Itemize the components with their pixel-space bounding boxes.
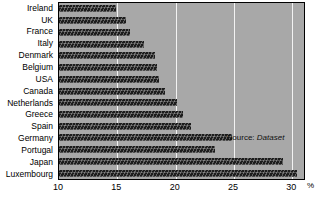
bar [59, 76, 159, 83]
x-axis-unit-label: % [307, 181, 314, 190]
value-axis: 1015202530 [58, 182, 305, 196]
bar-row [59, 26, 304, 38]
bar-row [59, 3, 304, 15]
bar [59, 88, 165, 95]
category-label: Japan [0, 156, 56, 168]
category-axis-labels: IrelandUKFranceItalyDenmarkBelgiumUSACan… [0, 2, 56, 180]
category-label: Germany [0, 132, 56, 144]
bar [59, 123, 191, 130]
bar-row [59, 85, 304, 97]
category-label: Luxembourg [0, 168, 56, 180]
bar [59, 158, 283, 165]
category-label: Belgium [0, 61, 56, 73]
bar-row [59, 167, 304, 179]
bar [59, 146, 215, 153]
bar [59, 99, 177, 106]
bar [59, 41, 144, 48]
bar [59, 5, 116, 12]
plot-area: Source: Dataset [58, 2, 305, 180]
bar-row [59, 50, 304, 62]
source-value: Dataset [257, 133, 285, 142]
bar [59, 170, 297, 177]
source-prefix: Source: [227, 133, 257, 142]
bar-row [59, 38, 304, 50]
bar-row [59, 144, 304, 156]
bar-chart: IrelandUKFranceItalyDenmarkBelgiumUSACan… [0, 0, 320, 206]
bar-row [59, 156, 304, 168]
category-label: USA [0, 73, 56, 85]
category-label: Netherlands [0, 97, 56, 109]
bar-row [59, 73, 304, 85]
category-label: Denmark [0, 49, 56, 61]
category-label: Greece [0, 109, 56, 121]
source-annotation: Source: Dataset [227, 133, 284, 142]
bar-row [59, 15, 304, 27]
bar [59, 52, 155, 59]
bar [59, 111, 183, 118]
bar [59, 29, 130, 36]
category-label: Italy [0, 38, 56, 50]
x-tick-label: 20 [170, 182, 180, 192]
category-label: France [0, 26, 56, 38]
x-tick-label: 30 [286, 182, 296, 192]
x-tick-label: 10 [53, 182, 63, 192]
category-label: UK [0, 14, 56, 26]
bar [59, 64, 157, 71]
category-label: Canada [0, 85, 56, 97]
x-tick-label: 25 [228, 182, 238, 192]
bar [59, 134, 232, 141]
x-tick-label: 15 [111, 182, 121, 192]
bar-row [59, 109, 304, 121]
category-label: Spain [0, 121, 56, 133]
bar-series [59, 3, 304, 179]
bar [59, 17, 126, 24]
category-label: Portugal [0, 144, 56, 156]
bar-row [59, 62, 304, 74]
bar-row [59, 97, 304, 109]
bar-row [59, 120, 304, 132]
category-label: Ireland [0, 2, 56, 14]
